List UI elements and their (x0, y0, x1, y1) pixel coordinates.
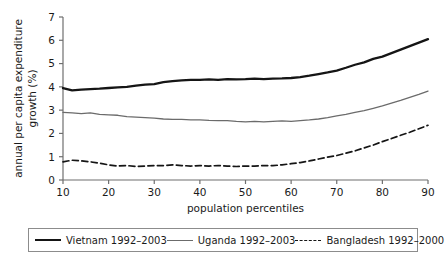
x-tick-label: 80 (376, 186, 389, 198)
y-axis-title-line-2: growth (%) (26, 69, 38, 127)
legend-swatch-bangladesh (295, 240, 321, 241)
x-tick-label: 60 (284, 186, 297, 198)
legend-label-bangladesh: Bangladesh 1992–2000 (326, 235, 444, 246)
legend-entry-vietnam: Vietnam 1992–2003 (35, 235, 167, 246)
legend-entry-bangladesh: Bangladesh 1992–2000 (295, 235, 444, 246)
legend-swatch-uganda (167, 240, 193, 241)
axis-labels-group: 01234567102030405060708090population per… (12, 11, 435, 214)
legend-entry-uganda: Uganda 1992–2003 (167, 235, 296, 246)
y-tick-label: 3 (48, 104, 55, 116)
y-tick-label: 2 (48, 127, 55, 139)
series-line-2 (63, 125, 428, 166)
line-chart: 01234567102030405060708090population per… (0, 0, 446, 220)
y-tick-label: 0 (48, 174, 55, 186)
y-tick-label: 6 (48, 34, 55, 46)
x-tick-label: 20 (102, 186, 115, 198)
legend-swatch-vietnam (35, 239, 61, 241)
chart-legend: Vietnam 1992–2003 Uganda 1992–2003 Bangl… (28, 228, 418, 252)
y-tick-label: 5 (48, 57, 55, 69)
x-tick-label: 50 (239, 186, 252, 198)
y-tick-label: 1 (48, 151, 55, 163)
caption-partial (4, 263, 304, 274)
x-axis-title: population percentiles (187, 202, 304, 214)
x-tick-label: 70 (330, 186, 343, 198)
series-line-1 (63, 91, 428, 122)
y-tick-label: 4 (48, 81, 55, 93)
y-axis-title-line-1: annual per capita expenditure (12, 19, 24, 178)
x-tick-label: 90 (421, 186, 434, 198)
y-tick-label: 7 (48, 11, 55, 23)
legend-label-uganda: Uganda 1992–2003 (198, 235, 296, 246)
axes-group (59, 17, 428, 184)
legend-label-vietnam: Vietnam 1992–2003 (66, 235, 167, 246)
x-tick-label: 40 (193, 186, 206, 198)
x-tick-label: 10 (56, 186, 69, 198)
series-group (63, 39, 428, 166)
x-tick-label: 30 (148, 186, 161, 198)
figure-container: 01234567102030405060708090population per… (0, 0, 446, 274)
series-line-0 (63, 39, 428, 90)
